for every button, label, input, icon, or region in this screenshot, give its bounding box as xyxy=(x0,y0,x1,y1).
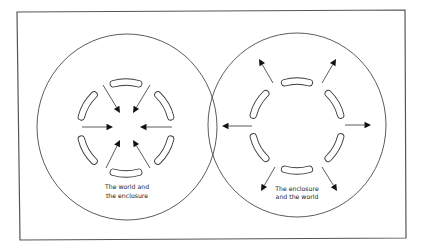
arrow-icon xyxy=(103,85,120,113)
arrow-icon xyxy=(261,167,275,191)
caption-line: The enclosure xyxy=(274,185,319,192)
arrow-icon xyxy=(82,124,113,130)
diagram-caption: The world andthe enclosure xyxy=(104,183,149,199)
arrow-icon xyxy=(259,59,273,83)
enclosure-slots xyxy=(81,82,170,174)
caption-line: and the world xyxy=(276,193,319,200)
slot-shape xyxy=(113,82,138,84)
arrow-icon xyxy=(133,85,150,113)
arrow-icon xyxy=(222,123,252,129)
enclosure-and-world-diagram: The enclosureand the world xyxy=(208,33,386,217)
arrow-icon xyxy=(322,167,337,191)
arrow-icon xyxy=(133,140,150,168)
arrow-icon xyxy=(345,122,371,128)
diagram-caption: The enclosureand the world xyxy=(274,185,319,200)
slot-shape xyxy=(253,94,265,115)
world-and-enclosure-diagram: The world andthe enclosure xyxy=(37,34,217,220)
slot-shape xyxy=(285,169,310,171)
arrow-icon xyxy=(106,140,120,168)
slot-shape xyxy=(81,139,94,161)
arrow-icon xyxy=(140,124,172,130)
caption-line: the enclosure xyxy=(106,192,148,199)
slot-shape xyxy=(158,95,171,117)
arrow-icon xyxy=(322,59,336,83)
enclosure-slots xyxy=(253,81,340,171)
slot-shape xyxy=(158,139,171,161)
slot-shape xyxy=(285,81,310,83)
slot-shape xyxy=(81,95,94,117)
slot-shape xyxy=(328,137,340,158)
diagram-canvas: The world andthe enclosureThe enclosurea… xyxy=(0,0,424,250)
slot-shape xyxy=(113,172,138,174)
slot-shape xyxy=(328,94,340,115)
caption-line: The world and xyxy=(104,183,149,190)
slot-shape xyxy=(253,137,265,158)
